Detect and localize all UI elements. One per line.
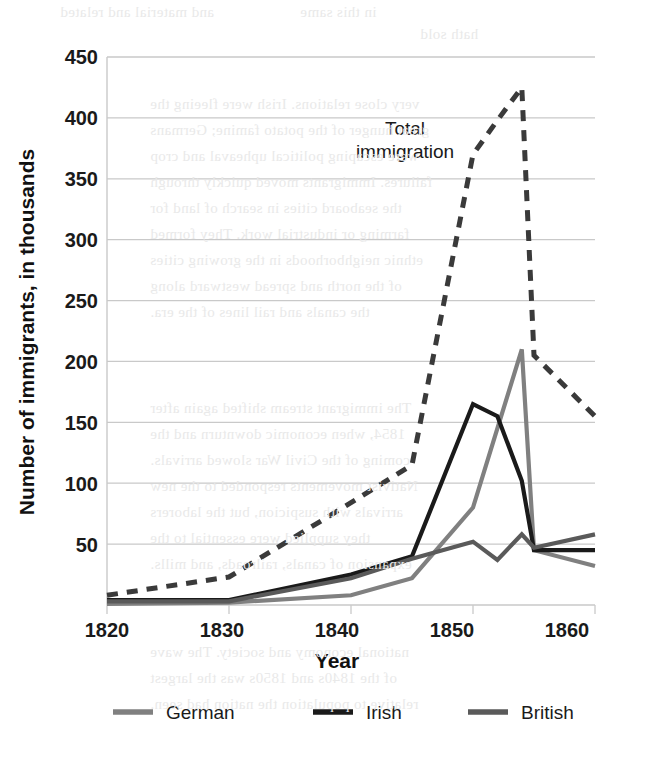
annotation-line-1: Total (385, 118, 425, 139)
y-tick-labels: 450 400 350 300 250 200 150 100 50 (65, 46, 98, 556)
y-tick-label: 300 (65, 229, 98, 251)
x-tick-label: 1860 (545, 619, 590, 641)
y-tick-label: 150 (65, 412, 98, 434)
legend-label-irish: Irish (366, 702, 402, 723)
annotation-line-2: immigration (356, 141, 454, 162)
chart-legend: GermanIrishBritish (113, 702, 574, 723)
x-tick-label: 1820 (85, 619, 130, 641)
immigration-line-chart: and material and related in this same ha… (0, 0, 646, 760)
legend-label-german: German (166, 702, 235, 723)
x-tick-labels: 1820 1830 1840 1850 1860 (85, 619, 590, 641)
total-immigration-annotation: Total immigration (356, 118, 454, 162)
series-line-total-immigration (107, 87, 595, 595)
chart-svg: 450 400 350 300 250 200 150 100 50 1820 … (0, 0, 646, 760)
x-tick-label: 1840 (315, 619, 360, 641)
data-series-layer (107, 87, 595, 603)
y-tick-label: 450 (65, 46, 98, 68)
legend-label-british: British (521, 702, 574, 723)
y-tick-label: 200 (65, 351, 98, 373)
x-tick-marks (107, 605, 595, 614)
x-axis-title: Year (315, 649, 359, 672)
y-axis-title: Number of immigrants, in thousands (15, 149, 38, 515)
y-tick-label: 400 (65, 107, 98, 129)
y-tick-label: 350 (65, 168, 98, 190)
y-tick-label: 50 (76, 534, 98, 556)
x-tick-label: 1850 (430, 619, 475, 641)
y-tick-label: 250 (65, 290, 98, 312)
x-tick-label: 1830 (200, 619, 245, 641)
gridlines (107, 57, 595, 544)
y-tick-label: 100 (65, 473, 98, 495)
